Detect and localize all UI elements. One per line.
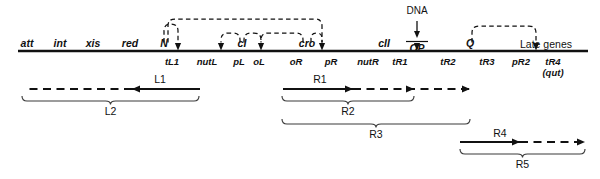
gene-label-cII: cII — [378, 38, 390, 49]
site-label-qut: (qut) — [542, 68, 563, 78]
arc-cro-to-oR — [261, 33, 303, 43]
dna-arrow-head — [414, 31, 420, 38]
arrowhead-oL — [218, 43, 224, 50]
site-label-pR: pR — [325, 57, 338, 67]
transcript-label-R1: R1 — [313, 74, 326, 85]
arrowhead-oR — [258, 43, 264, 50]
transcript-label-L1: L1 — [154, 74, 166, 85]
genetic-map-diagram: L1R1R4L2R2R3R5attintxisredNcIcrocIIQDNAO… — [0, 0, 600, 179]
brace-R2 — [282, 96, 414, 105]
brace-label-R2: R2 — [341, 106, 354, 117]
late-genes-label: Late genes — [520, 39, 572, 50]
site-label-tR2: tR2 — [440, 57, 455, 67]
arrowhead-nutL — [175, 43, 181, 50]
gene-label-Q: Q — [466, 38, 474, 49]
gene-label-N: N — [160, 38, 168, 49]
transcript-label-R4: R4 — [493, 128, 506, 139]
site-label-oL: oL — [253, 57, 265, 67]
transcript-R1b-arrowhead — [406, 86, 414, 93]
brace-R3 — [282, 119, 470, 128]
site-label-tR3: tR3 — [479, 57, 494, 67]
diagram-vector-layer — [0, 0, 600, 179]
transcript-L1-arrowhead — [132, 86, 140, 93]
brace-label-R5: R5 — [516, 159, 529, 170]
site-label-nutR: nutR — [357, 57, 379, 67]
site-label-nutL: nutL — [197, 57, 218, 67]
site-label-tL1: tL1 — [165, 57, 179, 67]
brace-label-L2: L2 — [105, 106, 117, 117]
brace-R5 — [460, 149, 585, 158]
site-label-pL: pL — [233, 57, 245, 67]
transcript-R4b-arrowhead — [577, 139, 585, 146]
gene-label-xis: xis — [86, 38, 101, 49]
transcript-R1-arrowhead — [345, 86, 353, 93]
gene-label-cro: cro — [299, 38, 315, 49]
gene-label-att: att — [21, 38, 34, 49]
site-label-oR: oR — [290, 57, 303, 67]
gene-label-cI: cI — [238, 38, 247, 49]
site-label-tR1: tR1 — [392, 57, 407, 67]
arrowhead-nutR — [319, 43, 325, 50]
brace-label-R3: R3 — [369, 129, 382, 140]
brace-L2 — [22, 96, 199, 105]
site-label-tR4: tR4 — [545, 57, 560, 67]
gene-label-red: red — [122, 38, 138, 49]
gene-label-int: int — [54, 38, 67, 49]
transcript-R4-arrowhead — [512, 139, 520, 146]
transcript-R1c-arrowhead — [462, 86, 470, 93]
dna-label: DNA — [406, 6, 427, 16]
op-label: OP — [409, 43, 424, 54]
site-label-pR2: pR2 — [512, 57, 530, 67]
